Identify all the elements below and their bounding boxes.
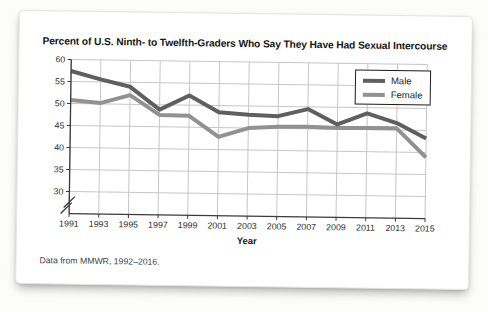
tick-label: 35: [54, 164, 64, 174]
tick-label: 1995: [118, 219, 138, 229]
tick-label: 2007: [296, 222, 316, 232]
tick-label: 55: [55, 76, 65, 86]
tick-label: 2013: [385, 223, 405, 233]
legend-label-male: Male: [391, 76, 412, 86]
figure-card: Percent of U.S. Ninth- to Twelfth-Grader…: [15, 10, 473, 290]
male-line-swatch: [363, 78, 385, 83]
tick-label: 1991: [59, 218, 79, 228]
axis-break-mark: [61, 202, 72, 213]
x-axis-label: Year: [237, 235, 258, 246]
tick-label: 2015: [415, 223, 435, 233]
tick-label: 30: [54, 186, 64, 196]
tick-label: 45: [54, 120, 64, 130]
legend-label-female: Female: [391, 90, 423, 100]
tick-label: 1997: [148, 220, 168, 230]
chart-legend: Male Female: [355, 70, 431, 106]
legend-item-male: Male: [363, 76, 423, 87]
tick-label: 2005: [267, 221, 287, 231]
chart-title: Percent of U.S. Ninth- to Twelfth-Grader…: [42, 35, 459, 52]
legend-item-female: Female: [363, 90, 423, 101]
tick-label: 60: [55, 54, 65, 64]
female-line-swatch: [363, 92, 385, 97]
tick-label: 2009: [326, 222, 346, 232]
tick-label: 40: [54, 142, 64, 152]
tick-label: 2003: [237, 221, 257, 231]
tick-label: 50: [55, 98, 65, 108]
tick-label: 2011: [356, 223, 375, 233]
source-footnote: Data from MMWR, 1992–2016.: [39, 255, 159, 267]
tick-label: 1993: [89, 219, 109, 229]
tick-label: 1999: [178, 220, 198, 230]
tick-label: 2001: [207, 220, 227, 230]
